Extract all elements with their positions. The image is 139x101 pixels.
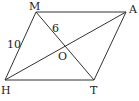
vertex-label-a: A: [128, 3, 138, 16]
intersection-label-o: O: [58, 50, 67, 63]
parallelogram-diagram: M A H T O 10 6: [0, 0, 139, 101]
vertex-label-m: M: [29, 0, 40, 13]
diagonal-ha: [5, 12, 126, 80]
diagram-svg: M A H T O 10 6: [0, 0, 139, 101]
vertex-label-h: H: [1, 84, 11, 97]
side-at: [94, 12, 126, 80]
measure-label-mo: 6: [52, 22, 59, 35]
vertex-label-t: T: [90, 84, 98, 97]
measure-label-mh: 10: [7, 38, 21, 51]
